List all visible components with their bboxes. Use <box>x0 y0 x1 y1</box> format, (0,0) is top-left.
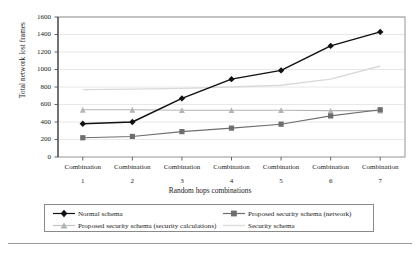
x-tick-label-line2: 5 <box>254 177 308 186</box>
legend-marker-normal-schema <box>53 209 75 218</box>
x-tick-label: Combination2 <box>105 163 159 186</box>
legend-item-normal-schema[interactable]: Normal schema <box>53 209 123 218</box>
y-tick-label: 1000 <box>25 66 51 73</box>
legend-label-security-schema: Security schema <box>248 222 295 230</box>
legend-item-proposed-security-schema-network[interactable]: Proposed security schema (network) <box>223 209 351 218</box>
legend-marker-proposed-security-calc <box>53 221 75 230</box>
x-tick-label-line2: 3 <box>155 177 209 186</box>
chart-legend: Normal schema Proposed security schema (… <box>44 204 374 232</box>
footer-divider <box>8 243 412 244</box>
x-tick-label-line1: Combination <box>114 163 151 171</box>
x-tick-label: Combination7 <box>353 163 407 186</box>
x-tick-label: Combination6 <box>304 163 358 186</box>
x-tick-label-line1: Combination <box>65 163 102 171</box>
x-tick-label-line1: Combination <box>213 163 250 171</box>
y-tick-label: 1400 <box>25 31 51 38</box>
x-tick-label-line2: 1 <box>56 177 110 186</box>
y-tick-label: 400 <box>25 119 51 126</box>
x-tick-label-line2: 4 <box>205 177 259 186</box>
y-tick-label: 1200 <box>25 49 51 56</box>
legend-label-proposed-security-calc: Proposed security schema (security calcu… <box>78 222 216 230</box>
y-tick-label: 800 <box>25 84 51 91</box>
legend-marker-proposed-network <box>223 209 245 218</box>
x-tick-label-line2: 2 <box>105 177 159 186</box>
x-tick-label-line1: Combination <box>362 163 399 171</box>
y-tick-label: 0 <box>25 154 51 161</box>
legend-marker-security-schema <box>223 221 245 230</box>
legend-label-normal-schema: Normal schema <box>78 210 123 218</box>
y-tick-label: 600 <box>25 101 51 108</box>
x-axis-title: Random hops combinations <box>0 186 420 195</box>
legend-item-security-schema[interactable]: Security schema <box>223 221 295 230</box>
y-tick-label: 1600 <box>25 14 51 21</box>
x-tick-label-line2: 6 <box>304 177 358 186</box>
x-tick-label: Combination5 <box>254 163 308 186</box>
x-tick-label: Combination4 <box>205 163 259 186</box>
x-tick-label: Combination1 <box>56 163 110 186</box>
y-tick-label: 200 <box>25 136 51 143</box>
x-tick-label-line1: Combination <box>312 163 349 171</box>
x-tick-label: Combination3 <box>155 163 209 186</box>
x-tick-label-line2: 7 <box>353 177 407 186</box>
x-tick-label-line1: Combination <box>263 163 300 171</box>
legend-item-proposed-security-schema-security-calculations[interactable]: Proposed security schema (security calcu… <box>53 221 216 230</box>
plot-area: Total network lost frames Random hops co… <box>0 0 420 200</box>
legend-label-proposed-network: Proposed security schema (network) <box>248 210 351 218</box>
figure-container: Total network lost frames Random hops co… <box>0 0 420 254</box>
x-tick-label-line1: Combination <box>164 163 201 171</box>
